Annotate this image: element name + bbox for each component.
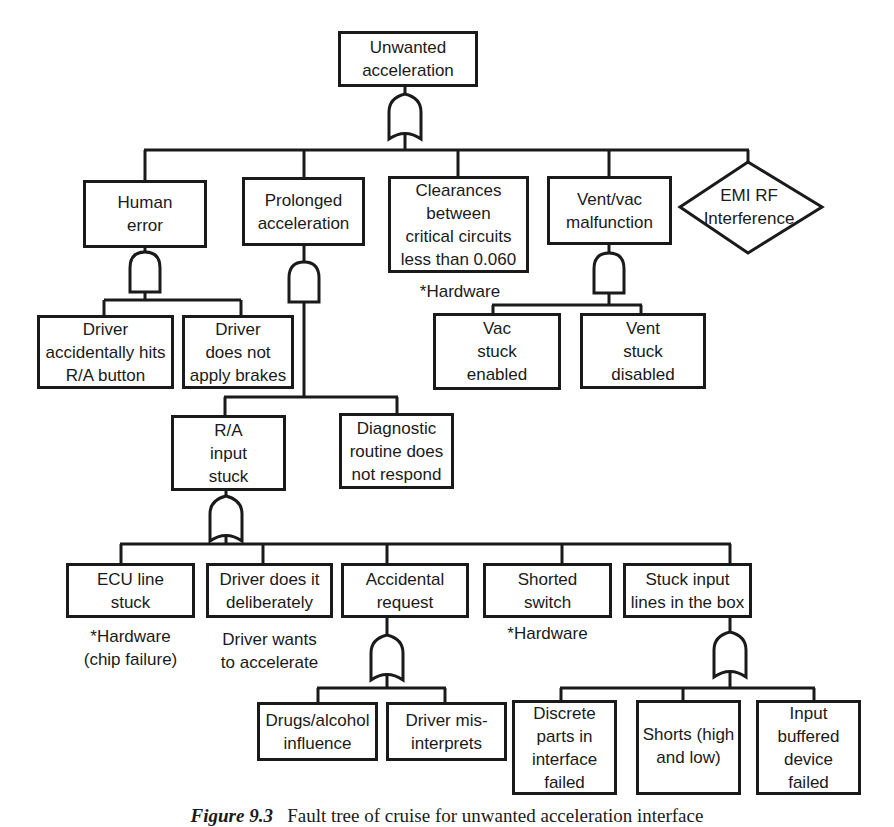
event-clearances: Clearances between critical circuits les… <box>388 176 529 273</box>
event-drugs-alcohol: Drugs/alcohol influence <box>257 702 378 761</box>
event-discrete-parts-failed: Discrete parts in interface failed <box>512 700 617 795</box>
event-prolonged-acceleration: Prolonged acceleration <box>242 177 365 246</box>
event-vent-stuck-disabled: Vent stuck disabled <box>580 313 706 389</box>
event-ecu-line-stuck: ECU line stuck <box>66 563 195 618</box>
event-vent-vac-malfunction: Vent/vac malfunction <box>547 176 672 245</box>
note-driver-wants-accelerate: Driver wants to accelerate <box>206 628 333 674</box>
figure-caption: Figure 9.3 Fault tree of cruise for unwa… <box>0 805 894 827</box>
figure-caption-text: Fault tree of cruise for unwanted accele… <box>287 805 703 826</box>
event-human-error: Human error <box>83 180 207 248</box>
event-driver-misinterprets: Driver mis- interprets <box>386 702 507 761</box>
event-vac-stuck-enabled: Vac stuck enabled <box>433 313 561 390</box>
and-gate-icon <box>130 252 160 292</box>
event-emi-rf-interference: EMI RF Interference <box>690 172 808 242</box>
event-driver-no-brakes: Driver does not apply brakes <box>182 315 294 389</box>
top-event-unwanted-acceleration: Unwanted acceleration <box>338 31 478 87</box>
note-hardware: *Hardware <box>400 280 520 303</box>
event-shorts-high-low: Shorts (high and low) <box>636 700 741 795</box>
event-shorted-switch: Shorted switch <box>483 563 612 618</box>
event-accidental-request: Accidental request <box>341 563 469 618</box>
event-ra-input-stuck: R/A input stuck <box>171 415 286 491</box>
event-driver-hits-ra-button: Driver accidentally hits R/A button <box>37 315 174 389</box>
note-hardware: *Hardware <box>483 622 612 645</box>
event-diagnostic-no-response: Diagnostic routine does not respond <box>339 413 454 489</box>
note-hardware-chip-failure: *Hardware (chip failure) <box>66 625 195 671</box>
figure-number: Figure 9.3 <box>191 805 273 826</box>
event-stuck-input-lines: Stuck input lines in the box <box>623 563 752 618</box>
and-gate-icon <box>289 262 319 302</box>
event-driver-deliberate: Driver does it deliberately <box>206 563 333 618</box>
event-input-buffered-failed: Input buffered device failed <box>756 700 861 795</box>
and-gate-icon <box>594 253 624 293</box>
